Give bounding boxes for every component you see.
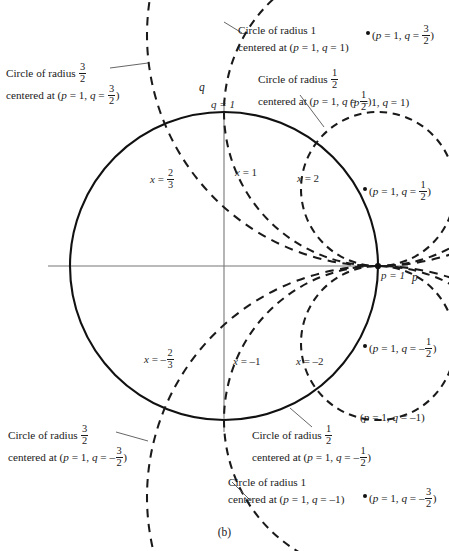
- annotation-radius-3-2-lower: Circle of radius 32centered at (p = 1, q…: [8, 424, 127, 469]
- fraction: 32: [425, 487, 432, 509]
- point-p1-q1: (p = 1, q = 1): [350, 96, 409, 108]
- fraction: 23: [167, 348, 174, 370]
- p-unit-tick-label: p = 1: [381, 269, 405, 281]
- fraction: 12: [419, 180, 426, 202]
- curve-label-x-one: x = 1: [235, 166, 257, 178]
- curve-label-x-two: x = 2: [297, 172, 319, 184]
- figure-smith-chart-construction: p q q = 1 p = 1 x = 23x = 1x = 2x = –23x…: [0, 0, 449, 551]
- variable-x: x: [150, 173, 155, 185]
- p-axis-label: p: [412, 271, 418, 283]
- variable-x: x: [144, 353, 149, 365]
- annotation-line-1: Circle of radius 12: [252, 424, 371, 446]
- variable-x: x: [233, 355, 238, 367]
- variable-p: p: [376, 29, 382, 41]
- fraction: 32: [108, 84, 115, 106]
- annotation-radius-1-upper: Circle of radius 1centered at (p = 1, q …: [238, 22, 349, 56]
- annotation-line-1: Circle of radius 32: [8, 424, 127, 446]
- variable-q: q: [404, 29, 410, 41]
- marker-dot-point-p1-q-3-2: [366, 31, 370, 35]
- variable-q: q: [401, 492, 407, 504]
- marker-dot-point-p1-q-neg-3-2: [363, 494, 367, 498]
- annotation-line-2: centered at (p = 1, q = –1): [228, 491, 344, 508]
- annotation-line-1: Circle of radius 12: [258, 68, 371, 90]
- curve-label-x-negative-two: x = –2: [296, 355, 324, 367]
- figure-caption: (b): [0, 526, 449, 538]
- fraction: 32: [116, 446, 123, 468]
- annotation-line-2: centered at (p = 1, q = 32): [6, 84, 119, 106]
- variable-x: x: [297, 172, 302, 184]
- variable-p: p: [373, 492, 379, 504]
- variable-x: x: [235, 166, 240, 178]
- variable-x: x: [296, 355, 301, 367]
- fraction: 23: [167, 168, 174, 190]
- variable-p: p: [364, 411, 370, 423]
- fraction: 12: [331, 68, 338, 90]
- curve-label-x-negative-two-thirds: x = –23: [144, 348, 174, 370]
- fraction: 12: [425, 337, 432, 359]
- annotation-line-2: centered at (p = 1, q = –12): [252, 446, 371, 468]
- marker-dot-point-p1-q-1-2: [363, 187, 367, 191]
- q-axis-label: q: [199, 81, 205, 93]
- variable-p: p: [354, 96, 360, 108]
- fraction: 32: [422, 24, 429, 46]
- annotation-radius-1-2-lower: Circle of radius 12centered at (p = 1, q…: [252, 424, 371, 469]
- fraction: 32: [81, 424, 88, 446]
- curve-label-x-negative-one: x = –1: [233, 355, 261, 367]
- curve-label-x-two-thirds: x = 23: [150, 168, 175, 190]
- point-p1-q-neg-3-2: (p = 1, q = –32): [369, 487, 436, 509]
- fraction: 32: [79, 62, 86, 84]
- marker-dot-point-p1-q-neg-1-2: [363, 344, 367, 348]
- variable-q: q: [401, 185, 407, 197]
- variable-q: q: [392, 411, 398, 423]
- annotation-line-1: Circle of radius 32: [6, 62, 119, 84]
- point-p1-q-3-2: (p = 1, q = 32): [372, 24, 434, 46]
- annotation-radius-1-lower: Circle of radius 1centered at (p = 1, q …: [228, 474, 344, 508]
- point-p1-q-1-2: (p = 1, q = 12): [369, 180, 431, 202]
- variable-q: q: [382, 96, 388, 108]
- variable-p: p: [373, 342, 379, 354]
- annotation-radius-3-2-upper: Circle of radius 32centered at (p = 1, q…: [6, 62, 119, 107]
- fraction: 12: [360, 446, 367, 468]
- annotation-line-1: Circle of radius 1: [228, 474, 344, 491]
- point-p1-q-neg-1-2: (p = 1, q = –12): [369, 337, 436, 359]
- q-unit-tick-label: q = 1: [211, 98, 235, 110]
- fraction: 12: [325, 424, 332, 446]
- variable-p: p: [373, 185, 379, 197]
- point-p1-q-neg-1: (p = 1, q = –1): [360, 411, 425, 423]
- annotation-line-1: Circle of radius 1: [238, 22, 349, 39]
- variable-q: q: [401, 342, 407, 354]
- annotation-line-2: centered at (p = 1, q = 1): [238, 39, 349, 56]
- annotation-line-2: centered at (p = 1, q = –32): [8, 446, 127, 468]
